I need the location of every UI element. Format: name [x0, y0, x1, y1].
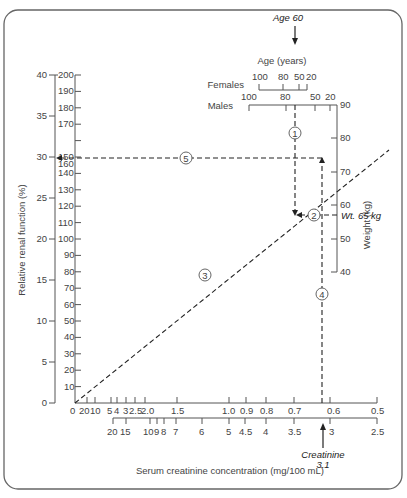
- tick-label: 0: [70, 405, 75, 416]
- tick-label: 80: [340, 132, 351, 143]
- tick-label: 110: [58, 217, 73, 228]
- tick-label: 20: [64, 364, 75, 375]
- step-5-marker: 5: [180, 152, 192, 164]
- tick-label: 130: [58, 184, 74, 195]
- tick-label: 20: [36, 233, 47, 244]
- females-label: Females: [208, 79, 245, 90]
- tick-label: 100: [58, 233, 74, 244]
- step-3-marker: 3: [199, 269, 211, 281]
- age-axis-title: Age (years): [257, 55, 306, 66]
- tick-label: 3: [123, 405, 128, 416]
- tick-label: 100: [252, 71, 268, 82]
- tick-label: 2.0: [141, 405, 154, 416]
- tick-label: 0.7: [288, 405, 301, 416]
- tick-label: 30: [64, 348, 75, 359]
- tick-label: 190: [58, 85, 74, 96]
- tick-label: 0.6: [327, 405, 340, 416]
- tick-label: 90: [64, 249, 75, 260]
- svg-text:2: 2: [311, 210, 316, 221]
- tick-label: 100: [241, 91, 257, 102]
- tick-label: 60: [340, 199, 351, 210]
- tick-label: 20: [107, 426, 118, 437]
- tick-label: 140: [58, 167, 74, 178]
- tick-label: 6: [199, 426, 204, 437]
- tick-label: 25: [36, 192, 47, 203]
- tick-label: 10: [143, 426, 154, 437]
- tick-label: 15: [120, 426, 131, 437]
- tick-label: 200: [58, 69, 74, 80]
- tick-label: 120: [58, 200, 74, 211]
- tick-label: 5: [107, 405, 112, 416]
- svg-text:3: 3: [202, 270, 207, 281]
- renal-function-ticks: 40 35 30 25 20 15 10 5 0: [36, 69, 55, 408]
- tick-label: 20: [306, 71, 317, 82]
- tick-label: 50: [294, 71, 305, 82]
- tick-label: 0: [42, 397, 47, 408]
- tick-label: 1.0: [222, 405, 235, 416]
- creatinine-callout-value: 3.1: [316, 459, 329, 470]
- tick-label: 7: [173, 426, 178, 437]
- tick-label: 4: [263, 426, 268, 437]
- arrow-up-icon: [320, 423, 326, 430]
- tick-label: 70: [340, 166, 351, 177]
- tick-label: 40: [36, 69, 47, 80]
- males-label: Males: [208, 100, 234, 111]
- tick-label: 10: [90, 405, 101, 416]
- tick-label: 50: [310, 91, 321, 102]
- tick-label: 0.5: [371, 405, 384, 416]
- creatinine-upper-ticks: 0 20 10 5 4 3 2.5 2.0 1.5 1.0 0.9 0.8 0.…: [70, 397, 384, 416]
- tick-label: 60: [64, 299, 75, 310]
- males-age-scale: 100 80 50 20: [241, 91, 337, 111]
- tick-label: 2.5: [371, 426, 384, 437]
- svg-text:5: 5: [183, 153, 188, 164]
- tick-label: 40: [64, 331, 75, 342]
- tick-label: 0.8: [260, 405, 273, 416]
- weight-axis-title: Weight (kg): [361, 201, 372, 249]
- tick-label: 3.5: [288, 426, 301, 437]
- step-2-marker: 2: [308, 209, 320, 221]
- serum-creatinine-axis-title: Serum creatinine concentration (mg/100 m…: [136, 465, 324, 476]
- tick-label: 10: [64, 381, 75, 392]
- clearance-ticks: 200 190 180 170 160 150 140 130 120 110 …: [58, 69, 81, 392]
- svg-text:4: 4: [319, 289, 324, 300]
- females-age-scale: 100 80 50 20: [252, 71, 317, 90]
- tick-label: 40: [340, 266, 351, 277]
- tick-label: 80: [64, 266, 75, 277]
- age-callout: Age 60: [272, 12, 304, 23]
- tick-label: 80: [278, 71, 289, 82]
- tick-label: 8: [161, 426, 166, 437]
- tick-label: 30: [36, 151, 47, 162]
- creatinine-lower-ticks: 20 15 10 9 8 7 6 5 4.5 4 3.5 3 2.5: [107, 418, 384, 437]
- weight-ticks: 90 80 70 60 50 40: [331, 99, 351, 277]
- tick-label: 20: [325, 91, 336, 102]
- renal-function-axis-title: Relative renal function (%): [16, 184, 27, 295]
- tick-label: 1.5: [171, 405, 184, 416]
- weight-callout: Wt. 65 kg: [341, 210, 382, 221]
- tick-label: 50: [340, 233, 351, 244]
- tick-label: 5: [42, 356, 47, 367]
- tick-label: 4: [114, 405, 119, 416]
- tick-label: 70: [64, 282, 75, 293]
- step-1-marker: 1: [289, 127, 301, 139]
- svg-text:1: 1: [292, 128, 297, 139]
- tick-label: 9: [154, 426, 159, 437]
- tick-label: 10: [36, 315, 47, 326]
- tick-label: 20: [79, 405, 90, 416]
- tick-label: 4.5: [239, 426, 252, 437]
- arrow-down-icon: [292, 38, 298, 45]
- tick-label: 170: [58, 118, 74, 129]
- tick-label: 15: [36, 274, 47, 285]
- tick-label: 80: [280, 91, 291, 102]
- tick-label: 35: [36, 110, 47, 121]
- tick-label: 180: [58, 102, 74, 113]
- step-4-marker: 4: [316, 288, 328, 300]
- tick-label: 3: [329, 426, 334, 437]
- tick-label: 50: [64, 315, 75, 326]
- tick-label: 0.9: [240, 405, 253, 416]
- nomogram: 40 35 30 25 20 15 10 5 0 Relative renal …: [0, 0, 407, 498]
- arrow-left-icon: [296, 212, 302, 218]
- tick-label: 5: [226, 426, 231, 437]
- tick-label: 90: [340, 99, 351, 110]
